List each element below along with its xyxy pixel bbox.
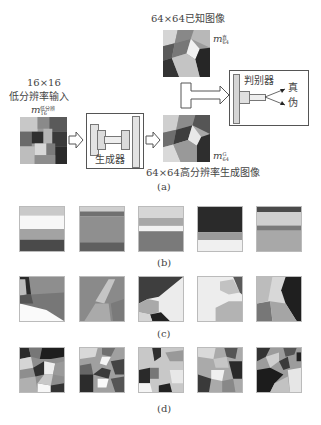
polygon-tile-4 bbox=[197, 276, 243, 322]
polygon-tile-1 bbox=[19, 276, 65, 322]
mosaic-pattern-2 bbox=[80, 348, 124, 392]
discriminator-box: 判别器 真 伪 bbox=[229, 70, 309, 126]
polygon-pattern-3 bbox=[139, 277, 183, 321]
polygon-pattern-5 bbox=[257, 277, 301, 321]
polygon-tile-2 bbox=[79, 276, 125, 322]
polygon-tile-3 bbox=[138, 276, 184, 322]
discriminator-layer-3 bbox=[249, 94, 266, 101]
generated-image bbox=[163, 115, 210, 162]
arrow-images-to-discriminator bbox=[180, 82, 230, 110]
mosaic-tile-2 bbox=[79, 347, 125, 393]
generator-box: 生成器 bbox=[86, 113, 144, 169]
caption-c: (c) bbox=[157, 328, 170, 339]
arrow-generator-to-output bbox=[145, 131, 161, 149]
caption-d: (d) bbox=[157, 403, 171, 414]
stripe-pattern-2 bbox=[80, 207, 124, 251]
mosaic-tile-5 bbox=[256, 347, 302, 393]
stripe-tile-2 bbox=[79, 206, 125, 252]
lr-mosaic bbox=[20, 117, 67, 164]
stripe-pattern-4 bbox=[198, 207, 242, 251]
known-symbol-sub: 64 bbox=[222, 40, 228, 45]
mosaic-pattern-1 bbox=[20, 348, 64, 392]
polygon-tile-5 bbox=[256, 276, 302, 322]
known-symbol: m真64 bbox=[213, 33, 229, 45]
stripe-pattern-3 bbox=[139, 207, 183, 251]
output-real-label: 真 bbox=[288, 83, 298, 93]
lr-size-label: 16×16 bbox=[27, 78, 61, 88]
known-image bbox=[163, 30, 210, 77]
generator-output-layer bbox=[132, 116, 140, 168]
generated-symbol-sub: 64 bbox=[222, 157, 228, 162]
generated-symbol-base: m bbox=[213, 150, 222, 161]
stripe-tile-1 bbox=[19, 206, 65, 252]
output-branch-arrows bbox=[265, 85, 289, 109]
lr-symbol-sub: 16 bbox=[40, 111, 55, 116]
mosaic-pattern-3 bbox=[139, 348, 183, 392]
mosaic-pattern-4 bbox=[198, 348, 242, 392]
caption-a: (a) bbox=[157, 181, 171, 192]
mosaic-tile-4 bbox=[197, 347, 243, 393]
lr-symbol: m低分辨16 bbox=[31, 104, 55, 116]
known-mosaic bbox=[163, 30, 210, 77]
generated-mosaic bbox=[163, 115, 210, 162]
stripe-tile-4 bbox=[197, 206, 243, 252]
generator-label: 生成器 bbox=[95, 155, 125, 165]
known-caption: 64×64已知图像 bbox=[151, 14, 225, 24]
arrow-lr-to-generator bbox=[68, 131, 84, 149]
polygon-pattern-4 bbox=[198, 277, 242, 321]
lr-title: 低分辨率输入 bbox=[9, 92, 69, 102]
mosaic-pattern-5 bbox=[257, 348, 301, 392]
generator-layer-4 bbox=[121, 130, 130, 150]
lr-symbol-base: m bbox=[31, 104, 40, 115]
lr-input-image bbox=[20, 117, 67, 164]
known-symbol-base: m bbox=[213, 33, 222, 44]
mosaic-tile-3 bbox=[138, 347, 184, 393]
generated-caption: 64×64高分辨率生成图像 bbox=[146, 168, 260, 178]
stripe-tile-5 bbox=[256, 206, 302, 252]
polygon-pattern-1 bbox=[20, 277, 64, 321]
polygon-pattern-2 bbox=[80, 277, 124, 321]
output-fake-label: 伪 bbox=[288, 98, 298, 108]
caption-b: (b) bbox=[157, 257, 171, 268]
stripe-pattern-1 bbox=[20, 207, 64, 251]
mosaic-tile-1 bbox=[19, 347, 65, 393]
stripe-pattern-5 bbox=[257, 207, 301, 251]
generated-symbol: mG64 bbox=[213, 150, 229, 162]
stripe-tile-3 bbox=[138, 206, 184, 252]
